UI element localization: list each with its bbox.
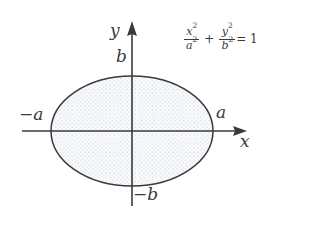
equation-x-fraction: x2 a2 bbox=[184, 26, 199, 52]
equation-y-fraction: y2 b2 bbox=[219, 26, 235, 52]
equation-y-denominator: b2 bbox=[219, 40, 235, 53]
equation-x-num-exponent: 2 bbox=[192, 21, 197, 30]
y-axis-arrowhead bbox=[127, 21, 137, 36]
equation-x-den-exponent: 2 bbox=[193, 35, 198, 44]
vertex-right-label: a bbox=[216, 104, 226, 121]
equation-y-den-exponent: 2 bbox=[228, 35, 233, 44]
covertex-bottom-label: −b bbox=[133, 186, 158, 203]
covertex-top-label: b bbox=[116, 48, 127, 65]
ellipse-diagram-canvas bbox=[0, 0, 320, 225]
equation-x-denominator: a2 bbox=[184, 40, 199, 53]
ellipse-figure: y x b −b −a a x2 a2 + y2 b2 = 1 bbox=[0, 0, 320, 225]
x-axis-label: x bbox=[240, 133, 250, 150]
equation-right-hand-side: = 1 bbox=[236, 33, 258, 45]
equation-plus-sign: + bbox=[204, 33, 214, 45]
y-axis-label: y bbox=[110, 22, 120, 39]
equation-y-num-exponent: 2 bbox=[228, 21, 233, 30]
ellipse-equation: x2 a2 + y2 b2 = 1 bbox=[183, 26, 258, 52]
vertex-left-label: −a bbox=[19, 106, 43, 123]
equation-x-den-base: a bbox=[186, 39, 193, 52]
